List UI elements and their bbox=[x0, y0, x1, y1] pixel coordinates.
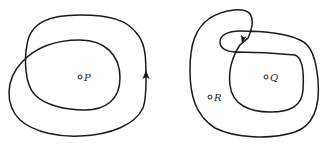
point-p-marker bbox=[78, 75, 82, 79]
point-r-marker bbox=[208, 95, 212, 99]
point-p-label: P bbox=[83, 72, 91, 83]
right-diagram: Q R bbox=[190, 10, 318, 137]
left-winding-curve bbox=[9, 15, 146, 136]
point-r-label: R bbox=[213, 92, 222, 103]
left-diagram: P bbox=[9, 15, 150, 136]
point-q-label: Q bbox=[270, 72, 278, 83]
right-winding-curve bbox=[190, 10, 318, 137]
point-q-marker bbox=[264, 75, 268, 79]
winding-number-figure: P Q R bbox=[0, 0, 327, 146]
